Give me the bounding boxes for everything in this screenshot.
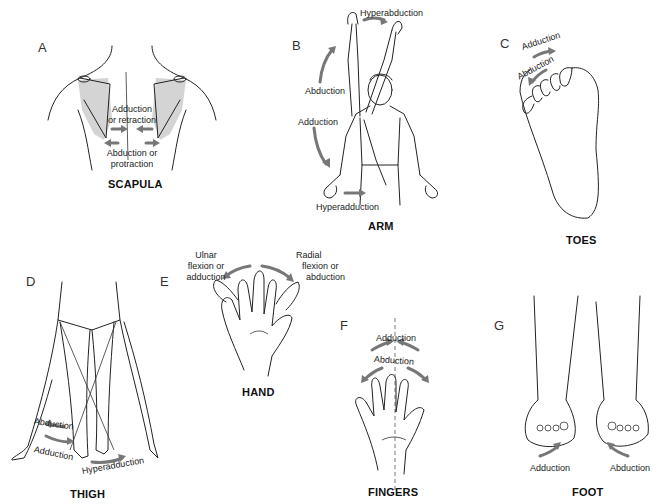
- label-adduction-line1: Adduction: [104, 104, 160, 115]
- label-ulnar-line2: flexion or: [180, 261, 232, 272]
- caption-scapula: SCAPULA: [108, 178, 163, 190]
- caption-toes: TOES: [566, 234, 597, 246]
- thigh-illustration: [12, 282, 158, 463]
- panel-letter-c: C: [500, 36, 509, 51]
- arm-illustration: [314, 12, 438, 205]
- panel-letter-e: E: [160, 274, 169, 289]
- label-abduction-line1: Abduction or: [102, 148, 162, 159]
- label-radial-line1: Radial: [296, 250, 356, 261]
- label-foot-abduction: Abduction: [610, 463, 650, 474]
- label-fingers-adduction: Adduction: [376, 333, 416, 344]
- label-radial-line2: flexion or: [296, 261, 356, 272]
- caption-arm: ARM: [368, 220, 394, 232]
- label-abduction-line2: protraction: [102, 159, 162, 170]
- label-ulnar-flexion: Ulnar flexion or adduction: [180, 250, 232, 283]
- label-foot-adduction: Adduction: [530, 463, 570, 474]
- label-abduction-protraction: Abduction or protraction: [102, 148, 162, 170]
- label-radial-flexion: Radial flexion or abduction: [296, 250, 356, 283]
- caption-thigh: THIGH: [70, 488, 105, 500]
- caption-hand: HAND: [242, 386, 275, 398]
- panel-letter-f: F: [340, 318, 348, 333]
- caption-foot: FOOT: [572, 486, 603, 498]
- caption-fingers: FINGERS: [368, 486, 418, 498]
- label-abduction: Abduction: [305, 86, 345, 97]
- label-ulnar-line3: adduction: [180, 272, 232, 283]
- foot-illustration: [525, 296, 648, 456]
- label-radial-line3: abduction: [296, 272, 356, 283]
- panel-letter-b: B: [292, 38, 301, 53]
- panel-letter-a: A: [38, 40, 47, 55]
- label-adduction: Adduction: [298, 117, 338, 128]
- label-adduction-retraction: Adduction or retraction: [104, 104, 160, 126]
- label-hyperadduction: Hyperadduction: [316, 202, 379, 213]
- label-ulnar-line1: Ulnar: [180, 250, 232, 261]
- panel-letter-d: D: [26, 274, 35, 289]
- label-adduction-line2: or retraction: [104, 115, 160, 126]
- panel-letter-g: G: [494, 318, 504, 333]
- label-hyperabduction: Hyperabduction: [360, 8, 423, 19]
